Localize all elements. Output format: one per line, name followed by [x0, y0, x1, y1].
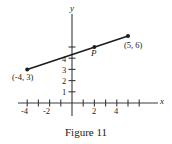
coordinate-plane: y x -4 -2 2 4 4 3 2 1 (-4, 3) P (5, 6) [0, 0, 172, 120]
point-label-right: (5, 6) [124, 41, 142, 50]
data-line [27, 36, 128, 69]
data-point-left [25, 67, 29, 71]
y-tick-label-1: 1 [62, 88, 66, 97]
point-label-left: (-4, 3) [12, 73, 33, 82]
y-tick-label-4: 4 [62, 55, 66, 64]
figure-caption: Figure 11 [0, 126, 172, 138]
figure-container: y x -4 -2 2 4 4 3 2 1 (-4, 3) P (5, 6) F… [0, 0, 172, 144]
x-tick-label-neg2: -2 [43, 107, 50, 116]
point-label-p: P [91, 49, 97, 58]
y-axis-label: y [70, 4, 74, 13]
x-tick-label-neg4: -4 [21, 107, 28, 116]
data-point-right [126, 34, 130, 38]
x-tick-label-2: 2 [92, 107, 96, 116]
x-tick-label-4: 4 [114, 107, 118, 116]
y-tick-label-3: 3 [62, 66, 66, 75]
x-axis-label: x [160, 97, 164, 106]
coordinate-plane-svg [0, 0, 172, 120]
y-tick-label-2: 2 [62, 77, 66, 86]
